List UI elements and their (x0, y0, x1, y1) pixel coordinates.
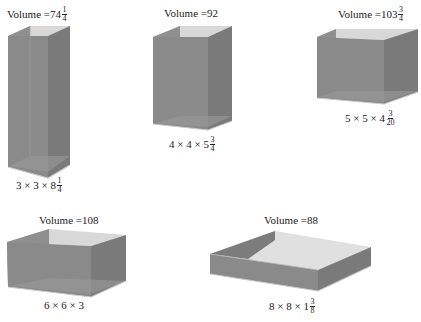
fraction-denominator: 8 (310, 307, 315, 315)
open-box-5 (0, 0, 421, 322)
dimensions-text: 8 × 8 × 1 (269, 301, 309, 312)
dimensions-label-box-5: 8 × 8 × 1 3 8 (269, 298, 315, 315)
dimensions-fraction: 3 8 (310, 298, 315, 315)
